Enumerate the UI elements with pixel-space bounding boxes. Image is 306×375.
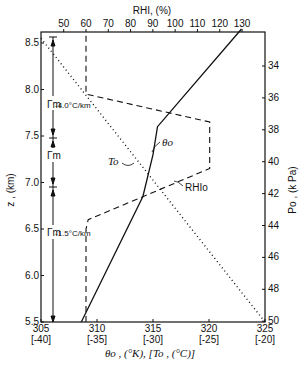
top-tick-label: 130 (234, 18, 251, 29)
gamma-lower-rate: -1.5°C/km (55, 229, 91, 238)
right-axis-label: Po , (k Pa) (287, 166, 298, 213)
bottom-tick-label: 310 (89, 323, 106, 334)
right-tick-label: 46 (268, 251, 280, 262)
right-tick-label: 42 (268, 188, 280, 199)
bottom-axis: 305[-40]310[-35]315[-30]320[-25]325[-20] (31, 319, 275, 345)
series-solid (81, 29, 241, 322)
to-label: To (108, 155, 119, 167)
lapse-rate-indicator (49, 37, 57, 322)
top-tick-label: 50 (58, 18, 70, 29)
bottom-tick-label: 320 (201, 323, 218, 334)
bottom-axis-label: θo , (°K), [To , (°C)] (105, 347, 195, 360)
right-tick-label: 34 (268, 60, 280, 71)
bottom-tick-label: 315 (145, 323, 162, 334)
rhi-label: RHIo (185, 182, 208, 193)
bottom-tick-label-celsius: [-40] (31, 334, 51, 345)
left-tick-label: 5.5 (25, 316, 39, 327)
bottom-tick-label-celsius: [-30] (143, 334, 163, 345)
bottom-tick-label-celsius: [-35] (87, 334, 107, 345)
right-tick-label: 44 (268, 220, 280, 231)
theta-label: θo (162, 136, 173, 148)
bottom-tick-label-celsius: [-20] (255, 334, 275, 345)
chart: 5060708090100110120130 RHI, (%) 305[-40]… (0, 0, 306, 375)
top-tick-label: 80 (125, 18, 137, 29)
left-tick-label: 6.5 (25, 223, 39, 234)
right-tick-label: 50 (268, 315, 280, 326)
top-tick-label: 100 (167, 18, 184, 29)
top-tick-label: 60 (80, 18, 92, 29)
top-tick-label: 90 (147, 18, 159, 29)
series-group (41, 29, 265, 322)
right-tick-label: 36 (268, 92, 280, 103)
top-axis-label: RHI, (%) (133, 5, 171, 16)
bottom-tick-label-celsius: [-25] (199, 334, 219, 345)
series-dotted (41, 38, 265, 322)
top-axis: 5060708090100110120130 (58, 18, 251, 32)
right-tick-label: 40 (268, 156, 280, 167)
left-tick-label: 6.0 (25, 270, 39, 281)
gamma-upper-rate: -4.0°C/km (55, 101, 91, 110)
left-axis-label: z , (km) (5, 173, 16, 206)
right-tick-label: 38 (268, 124, 280, 135)
left-tick-label: 8.0 (25, 84, 39, 95)
left-tick-label: 7.0 (25, 177, 39, 188)
plot-frame (41, 32, 265, 322)
top-tick-label: 110 (189, 18, 205, 29)
top-tick-label: 70 (103, 18, 115, 29)
left-tick-label: 8.5 (25, 37, 39, 48)
gamma-label-middle: Γm (47, 150, 61, 161)
top-tick-label: 120 (211, 18, 228, 29)
left-tick-label: 7.5 (25, 130, 39, 141)
right-tick-label: 48 (268, 283, 280, 294)
